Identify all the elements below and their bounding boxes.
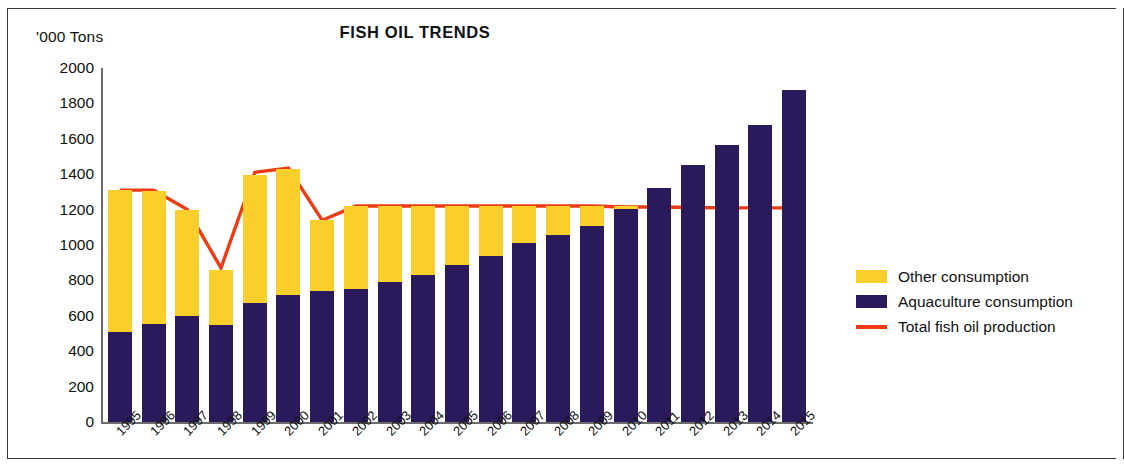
bar-2006[interactable]	[479, 206, 503, 422]
x-axis-labels: 1995199619971998199920002001200220032004…	[103, 424, 823, 467]
legend-item-label: Aquaculture consumption	[898, 293, 1073, 311]
bar-segment-aquaculture-consumption	[209, 325, 233, 422]
bar-segment-other-consumption	[209, 270, 233, 325]
bar-2010[interactable]	[614, 206, 638, 422]
bar-segment-aquaculture-consumption	[748, 125, 772, 422]
legend-item-3[interactable]: Total fish oil production	[856, 314, 1106, 339]
bar-segment-aquaculture-consumption	[445, 265, 469, 422]
bar-segment-aquaculture-consumption	[175, 316, 199, 422]
bar-1995[interactable]	[108, 190, 132, 422]
bar-2002[interactable]	[344, 206, 368, 422]
bar-segment-aquaculture-consumption	[715, 145, 739, 422]
bar-segment-other-consumption	[344, 206, 368, 289]
bar-2011[interactable]	[647, 188, 671, 422]
bar-segment-aquaculture-consumption	[276, 295, 300, 422]
bar-segment-other-consumption	[175, 210, 199, 316]
bar-2001[interactable]	[310, 220, 334, 422]
bar-segment-aquaculture-consumption	[647, 188, 671, 422]
bar-segment-other-consumption	[276, 169, 300, 296]
bar-segment-other-consumption	[310, 220, 334, 291]
y-axis-tick-label: 1400	[34, 165, 94, 183]
y-axis-tick-label: 400	[34, 342, 94, 360]
legend-line-swatch-icon	[856, 325, 887, 329]
bar-segment-aquaculture-consumption	[243, 303, 267, 422]
plot-area	[103, 68, 811, 422]
bar-2015[interactable]	[782, 90, 806, 422]
bar-segment-other-consumption	[142, 191, 166, 324]
bar-segment-aquaculture-consumption	[142, 324, 166, 422]
bar-segment-aquaculture-consumption	[344, 289, 368, 422]
chart-legend: Other consumptionAquaculture consumption…	[856, 264, 1106, 339]
bar-segment-aquaculture-consumption	[580, 226, 604, 422]
y-axis-tick-label: 1600	[34, 130, 94, 148]
bar-2004[interactable]	[411, 206, 435, 422]
legend-color-swatch-icon	[856, 270, 887, 283]
chart-page: '000 Tons FISH OIL TRENDS 02004006008001…	[0, 0, 1124, 467]
y-axis-tick-label: 600	[34, 307, 94, 325]
y-axis-ticks: 0200400600800100012001400160018002000	[28, 0, 94, 467]
bar-segment-aquaculture-consumption	[782, 90, 806, 422]
bar-2008[interactable]	[546, 206, 570, 422]
bar-segment-aquaculture-consumption	[411, 275, 435, 422]
legend-item-2[interactable]: Aquaculture consumption	[856, 289, 1106, 314]
bar-segment-other-consumption	[411, 206, 435, 275]
y-axis-tick-label: 1200	[34, 201, 94, 219]
bar-1999[interactable]	[243, 175, 267, 422]
bar-2003[interactable]	[378, 206, 402, 422]
bar-2000[interactable]	[276, 169, 300, 422]
bar-2007[interactable]	[512, 206, 536, 422]
bar-2013[interactable]	[715, 145, 739, 422]
bar-segment-other-consumption	[546, 206, 570, 235]
legend-color-swatch-icon	[856, 295, 887, 308]
bar-segment-other-consumption	[479, 206, 503, 256]
bar-2014[interactable]	[748, 125, 772, 422]
bar-segment-other-consumption	[378, 206, 402, 282]
chart-title: FISH OIL TRENDS	[0, 23, 830, 42]
y-axis-tick-label: 1800	[34, 94, 94, 112]
bar-segment-other-consumption	[108, 190, 132, 332]
legend-item-1[interactable]: Other consumption	[856, 264, 1106, 289]
bar-segment-other-consumption	[445, 206, 469, 265]
bar-segment-aquaculture-consumption	[546, 235, 570, 422]
bar-2009[interactable]	[580, 206, 604, 422]
legend-item-label: Total fish oil production	[898, 318, 1056, 336]
bar-segment-aquaculture-consumption	[310, 291, 334, 422]
y-axis-tick-label: 1000	[34, 236, 94, 254]
bar-segment-other-consumption	[512, 206, 536, 243]
legend-item-label: Other consumption	[898, 268, 1029, 286]
bar-segment-other-consumption	[243, 175, 267, 302]
bar-1996[interactable]	[142, 191, 166, 422]
bar-segment-aquaculture-consumption	[512, 243, 536, 422]
bar-segment-aquaculture-consumption	[614, 209, 638, 422]
bar-2005[interactable]	[445, 206, 469, 422]
bar-1998[interactable]	[209, 270, 233, 422]
bar-segment-aquaculture-consumption	[108, 332, 132, 422]
y-axis-tick-label: 0	[34, 413, 94, 431]
bar-1997[interactable]	[175, 210, 199, 422]
y-axis-tick-label: 800	[34, 271, 94, 289]
y-axis-tick-label: 200	[34, 378, 94, 396]
bar-segment-aquaculture-consumption	[378, 282, 402, 422]
bar-segment-aquaculture-consumption	[479, 256, 503, 422]
bar-segment-other-consumption	[580, 206, 604, 225]
bar-segment-aquaculture-consumption	[681, 165, 705, 422]
bar-2012[interactable]	[681, 165, 705, 422]
y-axis-tick-label: 2000	[34, 59, 94, 77]
